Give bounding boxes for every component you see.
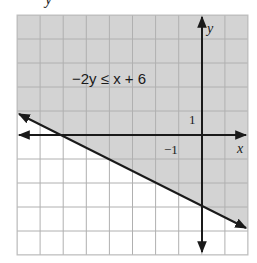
y-tick-label-1: 1 bbox=[189, 112, 196, 127]
x-axis-label: x bbox=[236, 141, 244, 156]
inequality-label: −2y ≤ x + 6 bbox=[72, 70, 146, 87]
y-axis-label: y bbox=[205, 21, 214, 36]
x-tick-label-neg1: −1 bbox=[164, 142, 178, 157]
inequality-graph: −2y ≤ x + 6 y x 1 −1 bbox=[0, 0, 257, 263]
